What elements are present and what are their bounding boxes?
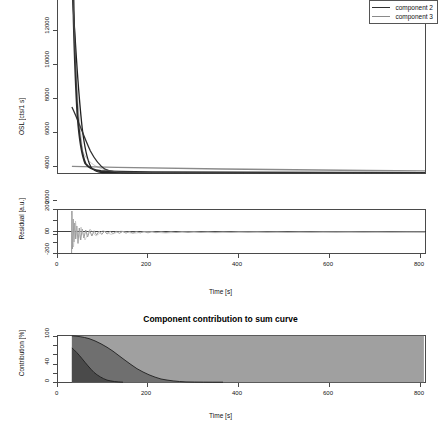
- contrib-ytick-20: [53, 373, 57, 374]
- residual-ytick-m100: [53, 242, 57, 243]
- contrib-ylabel-100: 100: [44, 328, 50, 338]
- osl-ylabel-6000: 6000: [44, 122, 50, 135]
- osl-ytick-6000: [53, 132, 57, 133]
- top-xtick-0: [57, 254, 58, 258]
- bottom-x-axis-title: Time [s]: [0, 412, 441, 419]
- osl-plot-area: [57, 0, 426, 174]
- bottom-xtick-600: [329, 383, 330, 387]
- legend-swatch-component-2: [372, 7, 390, 8]
- curve-component-2: [72, 107, 425, 173]
- osl-curves-svg: [57, 0, 426, 174]
- top-xtick-400: [238, 254, 239, 258]
- curve-component-3: [72, 166, 425, 171]
- residual-axis-title: Residual [a.u.]: [18, 198, 25, 240]
- residual-plot-area: [57, 209, 426, 254]
- residual-ytick-200: [53, 209, 57, 210]
- curve-measured-points: [73, 0, 425, 173]
- legend-entry-component-3: component 3: [372, 12, 433, 21]
- legend: component 2 component 3: [369, 0, 438, 24]
- contrib-ytick-40: [53, 364, 57, 365]
- legend-label-component-3: component 3: [395, 13, 433, 20]
- bottom-xlabel-400: 400: [232, 390, 242, 396]
- curve-sum: [72, 0, 425, 173]
- top-xtick-200: [147, 254, 148, 258]
- osl-ylabel-0: 0: [44, 231, 50, 234]
- residual-ytick-100: [53, 220, 57, 221]
- osl-axis-title: OSL [cts/1 s]: [18, 98, 25, 135]
- legend-swatch-component-3: [372, 16, 390, 17]
- osl-ytick-2000: [53, 200, 57, 201]
- top-xlabel-600: 600: [323, 261, 333, 267]
- contrib-ytick-80: [53, 345, 57, 346]
- curve-component-1: [72, 0, 425, 173]
- contribution-plot-area: [57, 335, 426, 383]
- top-xlabel-0: 0: [55, 261, 58, 267]
- bottom-xtick-400: [238, 383, 239, 387]
- bottom-xtick-800: [420, 383, 421, 387]
- residual-ytick-0: [53, 231, 57, 232]
- residual-curve-svg: [57, 209, 426, 254]
- contrib-ylabel-0: 0: [44, 379, 50, 382]
- top-x-axis-title: Time [s]: [0, 288, 441, 295]
- residual-ylabel-0: 0: [44, 228, 50, 231]
- residual-ylabel-m200: -200: [44, 243, 50, 255]
- residual-band-shadow: [72, 215, 425, 247]
- figure-root: 0 2000 4000 6000 8000 10000 12000 OSL [c…: [0, 0, 441, 429]
- contribution-area-svg: [57, 335, 426, 383]
- osl-ytick-8000: [53, 98, 57, 99]
- osl-ytick-12000: [53, 30, 57, 31]
- bottom-xlabel-0: 0: [55, 390, 58, 396]
- bottom-xtick-200: [147, 383, 148, 387]
- contrib-ytick-60: [53, 354, 57, 355]
- osl-ytick-4000: [53, 166, 57, 167]
- bottom-xtick-0: [57, 383, 58, 387]
- bottom-xlabel-200: 200: [141, 390, 151, 396]
- osl-ylabel-4000: 4000: [44, 156, 50, 169]
- top-xtick-600: [329, 254, 330, 258]
- top-xtick-800: [420, 254, 421, 258]
- top-xlabel-800: 800: [414, 261, 424, 267]
- osl-ytick-10000: [53, 64, 57, 65]
- residual-ylabel-200: 200: [44, 201, 50, 211]
- legend-label-component-2: component 2: [395, 4, 433, 11]
- contribution-title: Component contribution to sum curve: [0, 314, 441, 324]
- contrib-ytick-100: [53, 336, 57, 337]
- osl-ylabel-8000: 8000: [44, 88, 50, 101]
- contribution-axis-title: Contribution [%]: [18, 330, 25, 376]
- bottom-xlabel-600: 600: [323, 390, 333, 396]
- top-xlabel-200: 200: [141, 261, 151, 267]
- osl-ylabel-12000: 12000: [44, 17, 50, 34]
- contrib-ylabel-40: 40: [44, 358, 50, 365]
- top-xlabel-400: 400: [232, 261, 242, 267]
- bottom-xlabel-800: 800: [414, 390, 424, 396]
- osl-ylabel-10000: 10000: [44, 51, 50, 68]
- legend-entry-component-2: component 2: [372, 3, 433, 12]
